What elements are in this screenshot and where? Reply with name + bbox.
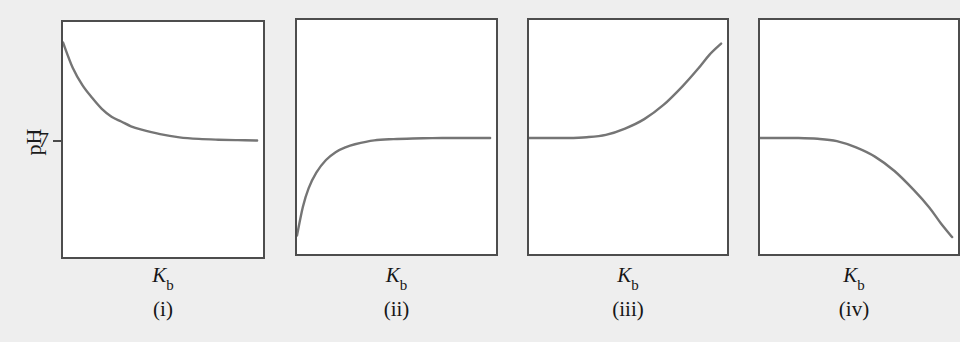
x-axis-caption-i: Kb — [61, 263, 265, 294]
x-axis-symbol: K — [843, 263, 857, 287]
plot-curve-iii — [529, 20, 727, 254]
plot-panel-iii — [527, 18, 729, 256]
y-axis-label: pH — [4, 112, 64, 172]
plot-panel-ii — [295, 18, 498, 256]
y-axis-tick-label-7: 7 — [38, 128, 49, 152]
x-axis-caption-iv: Kb — [758, 263, 950, 294]
panel-caption-iii: (iii) — [527, 297, 729, 321]
plot-curve-iv — [760, 20, 958, 254]
x-axis-symbol: K — [386, 263, 400, 287]
x-axis-symbol: K — [152, 263, 166, 287]
plot-panel-iv — [758, 18, 960, 256]
plot-curve-i — [63, 22, 263, 257]
x-axis-caption-ii: Kb — [295, 263, 498, 294]
panel-caption-i: (i) — [61, 297, 265, 321]
x-axis-caption-iii: Kb — [527, 263, 729, 294]
panel-caption-iv: (iv) — [758, 297, 950, 321]
x-axis-subscript: b — [166, 277, 174, 293]
plot-curve-ii — [297, 20, 496, 254]
panel-caption-ii: (ii) — [295, 297, 498, 321]
plot-panel-i — [61, 20, 265, 259]
x-axis-subscript: b — [400, 277, 408, 293]
x-axis-subscript: b — [631, 277, 639, 293]
x-axis-symbol: K — [617, 263, 631, 287]
x-axis-subscript: b — [857, 277, 865, 293]
